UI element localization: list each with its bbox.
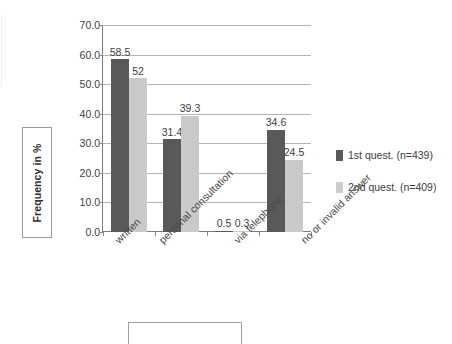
scan-artifact-line xyxy=(1,14,2,86)
y-axis-tick-label: 30.0 xyxy=(80,138,100,149)
y-axis-tick-mark xyxy=(99,202,103,203)
bar-value-label: 24.5 xyxy=(278,147,310,158)
y-axis-tick-label: 70.0 xyxy=(80,20,100,31)
y-axis-tick-labels: 70.060.050.040.030.020.010.00.0 xyxy=(62,18,100,240)
bottom-caption-box xyxy=(128,322,242,344)
chart-legend: 1st quest. (n=439)2nd quest. (n=409) xyxy=(336,148,452,212)
legend-color-swatch xyxy=(336,150,343,161)
bar[interactable] xyxy=(285,160,303,232)
y-axis-tick-mark xyxy=(99,143,103,144)
y-axis-tick-label: 40.0 xyxy=(80,109,100,120)
bar[interactable] xyxy=(267,130,285,232)
y-axis-title-box: Frequency in % xyxy=(22,127,52,238)
x-axis-category-labels: writtenpersonal consultationvia telephon… xyxy=(103,232,318,332)
y-axis-tick-label: 20.0 xyxy=(80,168,100,179)
legend-item[interactable]: 1st quest. (n=439) xyxy=(336,148,452,162)
bar-value-label: 39.3 xyxy=(174,103,206,114)
gridline xyxy=(103,25,311,26)
y-axis-line xyxy=(102,25,103,232)
bar-value-label: 58.5 xyxy=(104,47,136,58)
y-axis-tick-label: 0.0 xyxy=(85,227,100,238)
y-axis-title: Frequency in % xyxy=(31,143,43,222)
bar-value-label: 34.6 xyxy=(260,117,292,128)
legend-item[interactable]: 2nd quest. (n=409) xyxy=(336,180,452,194)
y-axis-tick-label: 60.0 xyxy=(80,50,100,61)
bar[interactable] xyxy=(111,59,129,232)
y-axis-tick-mark xyxy=(99,25,103,26)
legend-label: 1st quest. (n=439) xyxy=(348,149,433,161)
legend-label: 2nd quest. (n=409) xyxy=(348,181,436,193)
y-axis-tick-mark xyxy=(99,173,103,174)
y-axis-tick-label: 50.0 xyxy=(80,79,100,90)
y-axis-tick-mark xyxy=(99,84,103,85)
y-axis-tick-mark xyxy=(99,55,103,56)
y-axis-tick-label: 10.0 xyxy=(80,197,100,208)
bar[interactable] xyxy=(129,78,147,232)
y-axis-tick-mark xyxy=(99,114,103,115)
legend-color-swatch xyxy=(336,182,343,193)
bar-value-label: 52 xyxy=(122,66,154,77)
